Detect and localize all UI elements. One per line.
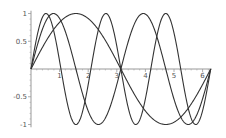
y-tick-label: 1 xyxy=(23,10,27,18)
y-tick-label: -1 xyxy=(20,121,27,129)
x-tick-label: 4 xyxy=(143,72,148,80)
y-tick-label: 0.5 xyxy=(16,38,27,46)
x-tick-label: 5 xyxy=(172,72,176,80)
y-tick-label: -0.5 xyxy=(13,93,27,101)
plot-area: 12345610.5-0.5-1 xyxy=(0,0,226,138)
x-tick-label: 6 xyxy=(200,72,205,80)
